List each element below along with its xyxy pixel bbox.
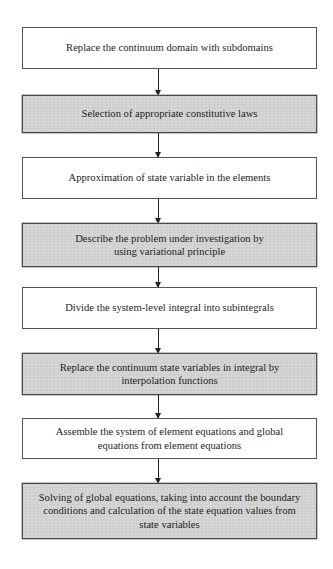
step-3-box: Approximation of state variable in the e…	[22, 157, 317, 199]
step-8-label: Solving of global equations, taking into…	[33, 491, 306, 532]
arrow-step-6-to-7	[158, 395, 159, 418]
step-4-box: Describe the problem under investigation…	[22, 223, 317, 267]
step-5-box: Divide the system-level integral into su…	[22, 287, 317, 329]
step-3-label: Approximation of state variable in the e…	[69, 171, 271, 185]
arrow-step-2-to-3	[158, 133, 159, 157]
arrow-step-5-to-6	[158, 329, 159, 353]
step-1-box: Replace the continuum domain with subdom…	[22, 27, 317, 69]
arrow-step-7-to-8	[158, 459, 159, 483]
step-1-label: Replace the continuum domain with subdom…	[66, 41, 273, 55]
step-2-label: Selection of appropriate constitutive la…	[82, 107, 258, 121]
step-2-box: Selection of appropriate constitutive la…	[22, 95, 317, 133]
step-4-label: Describe the problem under investigation…	[63, 232, 276, 259]
step-5-label: Divide the system-level integral into su…	[65, 301, 274, 315]
step-6-label: Replace the continuum state variables in…	[53, 361, 286, 388]
arrow-step-1-to-2	[158, 69, 159, 95]
step-8-box: Solving of global equations, taking into…	[22, 483, 317, 539]
arrow-step-3-to-4	[158, 199, 159, 223]
step-6-box: Replace the continuum state variables in…	[22, 353, 317, 395]
step-7-label: Assemble the system of element equations…	[53, 425, 286, 452]
fem-procedure-flowchart: Replace the continuum domain with subdom…	[0, 0, 333, 569]
arrow-step-4-to-5	[158, 267, 159, 287]
step-7-box: Assemble the system of element equations…	[22, 418, 317, 459]
